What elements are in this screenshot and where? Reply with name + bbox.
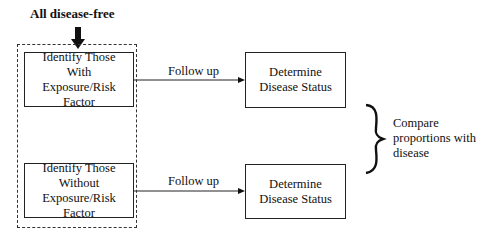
unexposed-line-2: Without [25, 176, 133, 191]
outcome-bottom-line-2: Disease Status [259, 192, 332, 207]
exposed-line-3: Exposure/Risk Factor [25, 80, 133, 110]
curly-brace-icon [366, 105, 383, 173]
comparison-line-2: proportions with [393, 131, 476, 146]
exposed-group-box: Identify Those With Exposure/Risk Factor [24, 52, 134, 107]
follow-up-label-bottom: Follow up [168, 174, 219, 189]
follow-up-label-top: Follow up [168, 64, 219, 79]
comparison-note: Compare proportions with disease [393, 116, 476, 161]
outcome-box-top: Determine Disease Status [245, 52, 346, 108]
exposed-line-2: With [25, 65, 133, 80]
unexposed-line-1: Identify Those [25, 161, 133, 176]
unexposed-group-box: Identify Those Without Exposure/Risk Fac… [24, 163, 134, 218]
outcome-top-line-2: Disease Status [259, 80, 332, 95]
comparison-line-1: Compare [393, 116, 476, 131]
comparison-line-3: disease [393, 146, 476, 161]
unexposed-line-3: Exposure/Risk Factor [25, 191, 133, 221]
outcome-bottom-line-1: Determine [259, 177, 332, 192]
outcome-box-bottom: Determine Disease Status [245, 164, 346, 219]
outcome-top-line-1: Determine [259, 65, 332, 80]
exposed-line-1: Identify Those [25, 50, 133, 65]
study-population-title: All disease-free [30, 6, 115, 22]
